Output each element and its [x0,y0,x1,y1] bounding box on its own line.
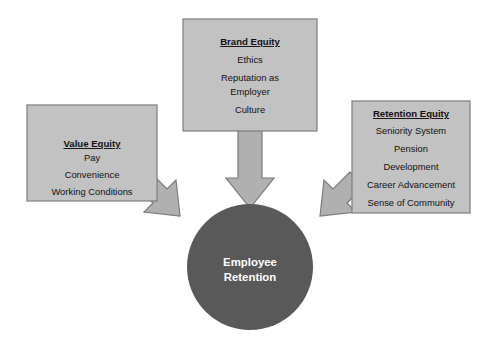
diagram-canvas: Employee Retention Value Equity Pay Conv… [0,0,498,356]
box-brand-equity-item-0: Ethics [237,54,263,65]
box-value-equity-item-1: Convenience [65,169,120,180]
arrow-brand-to-hub [226,128,274,208]
box-value-equity-item-2: Working Conditions [51,186,132,197]
box-brand-equity-item-1: Reputation as [221,72,279,83]
box-retention-equity-item-2: Development [383,161,439,172]
box-value-equity-title: Value Equity [63,138,121,149]
box-retention-equity-item-4: Sense of Community [367,197,454,208]
box-retention-equity-item-0: Seniority System [376,125,447,136]
retention-equity-diagram: Employee Retention Value Equity Pay Conv… [0,0,498,356]
box-brand-equity-item-3: Culture [235,104,265,115]
employee-retention-hub: Employee Retention [187,204,313,330]
box-retention-equity-item-3: Career Advancement [367,179,455,190]
box-retention-equity-item-1: Pension [394,143,428,154]
box-value-equity-item-0: Pay [84,152,100,163]
hub-label-line1: Employee [223,256,277,268]
box-brand-equity: Brand Equity Ethics Reputation as Employ… [183,19,317,131]
box-retention-equity-title: Retention Equity [373,108,450,119]
box-brand-equity-item-2: Employer [230,86,270,97]
box-brand-equity-title: Brand Equity [220,36,280,47]
hub-label-line2: Retention [224,271,277,283]
box-retention-equity: Retention Equity Seniority System Pensio… [352,101,470,213]
box-value-equity: Value Equity Pay Convenience Working Con… [27,105,157,201]
